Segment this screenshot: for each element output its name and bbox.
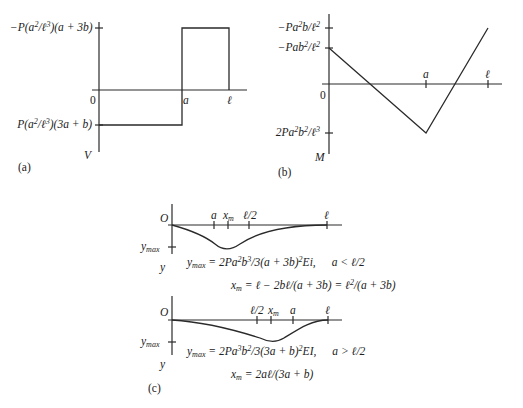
panel-b-moment-diagram	[322, 14, 502, 154]
panel-c-lower-y-axis-label: y	[160, 359, 165, 371]
panel-c-upper-origin-label: O	[160, 213, 168, 225]
panel-c-lower-xm-formula: xm = 2aℓ/(3a + b)	[231, 369, 313, 381]
panel-a-top-value-label: −P(a2/ℓ3)(a + 3b)	[10, 22, 92, 34]
panel-b-bottom-value-label: 2Pa2b2/ℓ3	[250, 127, 320, 139]
panel-c-lower-origin-label: O	[160, 307, 168, 319]
panel-c-upper-half-l-label: ℓ/2	[243, 210, 257, 222]
panel-c-caption: (c)	[148, 383, 161, 395]
panel-c-upper-ymax-label: ymax	[141, 241, 159, 253]
panel-b-origin-label: 0	[320, 90, 326, 102]
panel-b-caption: (b)	[278, 167, 291, 179]
panel-c-lower-half-l-label: ℓ/2	[250, 305, 264, 317]
panel-c-lower-ymax-formula: ymax = 2Pa3b2/3(3a + b)2EI,a > ℓ/2	[187, 346, 365, 358]
panel-b-m-axis-label: M	[315, 152, 325, 164]
panel-b-moment-curve	[329, 28, 488, 133]
panel-a-a-label: a	[183, 95, 189, 107]
panel-c-upper-xm-formula: xm = ℓ − 2bℓ/(a + 3b) = ℓ2/(a + 3b)	[231, 280, 396, 292]
panel-a-caption: (a)	[18, 162, 31, 174]
panel-a-l-label: ℓ	[227, 95, 232, 107]
panel-c-lower-l-label: ℓ	[325, 305, 330, 317]
panel-b-a-label: a	[423, 69, 429, 81]
panel-b-top-value-label: −Pa2b/ℓ2	[250, 22, 320, 34]
panel-b-second-value-label: −Pab2/ℓ2	[250, 42, 320, 54]
panel-c-lower-ymax-label: ymax	[141, 336, 159, 348]
panel-a-shear-diagram	[92, 22, 247, 152]
panel-c-upper-a-label: a	[211, 210, 217, 222]
panel-c-upper-ymax-formula: ymax = 2Pa2b3/3(a + 3b)2Ei,a < ℓ/2	[187, 257, 365, 269]
panel-c-upper-y-axis-label: y	[160, 262, 165, 274]
panel-a-v-axis-label: V	[84, 150, 91, 162]
panel-a-shear-curve	[99, 28, 229, 125]
panel-a-bottom-value-label: P(a2/ℓ3)(3a + b)	[10, 119, 92, 131]
panel-b-l-label: ℓ	[485, 69, 490, 81]
panel-c-upper-xm-label: xm	[223, 210, 234, 222]
panel-c-upper-l-label: ℓ	[324, 210, 329, 222]
panel-c-lower-deflection-curve	[172, 320, 328, 341]
panel-c-lower-a-label: a	[290, 305, 296, 317]
panel-c-lower-xm-label: xm	[268, 305, 279, 317]
panel-a-origin-label: 0	[90, 95, 96, 107]
